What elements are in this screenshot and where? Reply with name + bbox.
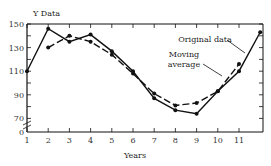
- y-axis-label: Y Data: [32, 9, 60, 18]
- svg-text:5: 5: [109, 136, 114, 145]
- chart: Y Data 07090110130150 1234567891011 Year…: [0, 0, 271, 166]
- svg-text:10: 10: [213, 136, 223, 145]
- svg-text:6: 6: [130, 136, 135, 145]
- svg-text:110: 110: [9, 67, 24, 76]
- svg-text:4: 4: [88, 136, 93, 145]
- annotation-moving-2: average: [168, 60, 201, 69]
- svg-text:70: 70: [14, 114, 24, 123]
- svg-text:7: 7: [152, 136, 157, 145]
- svg-text:130: 130: [9, 44, 24, 53]
- svg-text:2: 2: [46, 136, 51, 145]
- svg-text:8: 8: [173, 136, 178, 145]
- svg-text:1: 1: [24, 136, 29, 145]
- svg-text:11: 11: [234, 136, 244, 145]
- svg-text:0: 0: [19, 128, 24, 137]
- x-axis-label: Years: [123, 151, 146, 160]
- svg-text:150: 150: [9, 20, 24, 29]
- annotation-original: Original data: [178, 35, 232, 44]
- svg-text:9: 9: [194, 136, 199, 145]
- svg-text:3: 3: [67, 136, 72, 145]
- svg-text:90: 90: [14, 91, 24, 100]
- annotation-moving-1: Moving: [169, 50, 199, 59]
